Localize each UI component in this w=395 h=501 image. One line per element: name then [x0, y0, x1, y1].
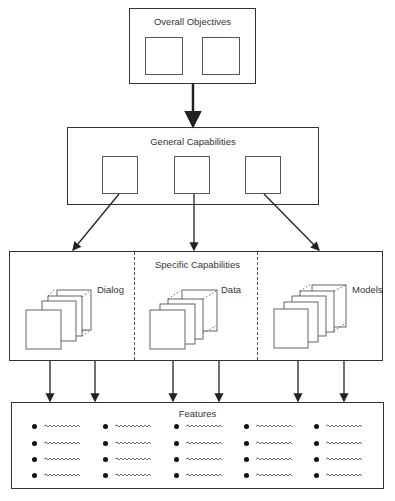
- squiggle-text-placeholder-icon: [115, 456, 151, 462]
- feature-item: [103, 472, 151, 478]
- bullet-icon: [32, 441, 37, 446]
- feature-item: [314, 423, 362, 429]
- bullet-icon: [32, 457, 37, 462]
- specific-capabilities-title: Specific Capabilities: [155, 259, 240, 270]
- feature-item: [32, 440, 80, 446]
- squiggle-text-placeholder-icon: [186, 472, 222, 478]
- squiggle-text-placeholder-icon: [115, 472, 151, 478]
- squiggle-text-placeholder-icon: [115, 423, 151, 429]
- bullet-icon: [103, 457, 108, 462]
- squiggle-text-placeholder-icon: [326, 472, 362, 478]
- feature-item: [103, 440, 151, 446]
- bullet-icon: [314, 473, 319, 478]
- bullet-icon: [244, 424, 249, 429]
- squiggle-text-placeholder-icon: [256, 456, 292, 462]
- feature-item: [244, 423, 292, 429]
- feature-item: [244, 456, 292, 462]
- bullet-icon: [174, 457, 179, 462]
- specific-capabilities-box: Specific Capabilities Dialog Data Models: [9, 251, 383, 361]
- bullet-icon: [103, 424, 108, 429]
- squiggle-text-placeholder-icon: [44, 456, 80, 462]
- feature-item: [244, 472, 292, 478]
- objective-box-1: [145, 37, 183, 75]
- bullet-icon: [314, 424, 319, 429]
- general-capabilities-box: General Capabilities: [67, 127, 319, 205]
- features-title: Features: [12, 408, 383, 419]
- bullet-icon: [244, 473, 249, 478]
- feature-item: [174, 423, 222, 429]
- feature-item: [314, 472, 362, 478]
- bullet-icon: [314, 457, 319, 462]
- capability-box-1: [102, 156, 138, 194]
- capability-box-2: [174, 156, 210, 194]
- bullet-icon: [32, 424, 37, 429]
- feature-item: [244, 440, 292, 446]
- feature-item: [32, 472, 80, 478]
- feature-item: [174, 440, 222, 446]
- overall-objectives-box: Overall Objectives: [129, 8, 256, 84]
- section-label-dialog: Dialog: [97, 284, 124, 295]
- feature-item: [32, 456, 80, 462]
- squiggle-text-placeholder-icon: [256, 423, 292, 429]
- squiggle-text-placeholder-icon: [44, 440, 80, 446]
- squiggle-text-placeholder-icon: [44, 423, 80, 429]
- objective-box-2: [202, 37, 240, 75]
- squiggle-text-placeholder-icon: [44, 472, 80, 478]
- overall-objectives-title: Overall Objectives: [130, 16, 255, 27]
- squiggle-text-placeholder-icon: [186, 440, 222, 446]
- section-label-data: Data: [221, 284, 241, 295]
- bullet-icon: [103, 473, 108, 478]
- bullet-icon: [103, 441, 108, 446]
- capability-box-3: [245, 156, 281, 194]
- squiggle-text-placeholder-icon: [256, 472, 292, 478]
- bullet-icon: [244, 441, 249, 446]
- feature-item: [314, 440, 362, 446]
- squiggle-text-placeholder-icon: [326, 456, 362, 462]
- squiggle-text-placeholder-icon: [326, 423, 362, 429]
- section-divider-1: [134, 252, 135, 360]
- squiggle-text-placeholder-icon: [186, 423, 222, 429]
- features-box: Features: [11, 402, 384, 489]
- squiggle-text-placeholder-icon: [256, 440, 292, 446]
- bullet-icon: [314, 441, 319, 446]
- section-label-models: Models: [352, 284, 383, 295]
- feature-item: [103, 456, 151, 462]
- feature-item: [32, 423, 80, 429]
- bullet-icon: [174, 424, 179, 429]
- bullet-icon: [174, 473, 179, 478]
- feature-item: [174, 456, 222, 462]
- squiggle-text-placeholder-icon: [326, 440, 362, 446]
- feature-item: [103, 423, 151, 429]
- bullet-icon: [32, 473, 37, 478]
- bullet-icon: [244, 457, 249, 462]
- squiggle-text-placeholder-icon: [115, 440, 151, 446]
- squiggle-text-placeholder-icon: [186, 456, 222, 462]
- general-capabilities-title: General Capabilities: [68, 136, 318, 147]
- feature-item: [314, 456, 362, 462]
- bullet-icon: [174, 441, 179, 446]
- section-divider-2: [257, 252, 258, 360]
- feature-item: [174, 472, 222, 478]
